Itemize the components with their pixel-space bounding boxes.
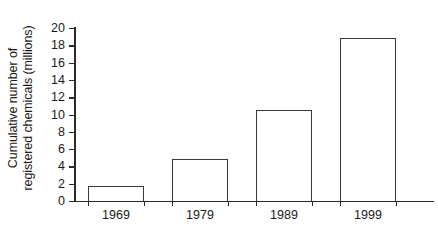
y-tick-label: 6 [58, 141, 65, 157]
y-tick-mark [69, 115, 74, 116]
y-tick-label: 4 [58, 158, 65, 174]
y-tick-label: 20 [51, 20, 65, 36]
bar-chart-figure: Cumulative number of registered chemical… [0, 0, 438, 237]
x-tick-mark [172, 201, 173, 206]
x-tick-mark [312, 201, 313, 206]
y-tick-label: 18 [51, 37, 65, 53]
x-tick-mark [88, 201, 89, 206]
y-tick-mark [69, 45, 74, 46]
bar [172, 159, 228, 201]
y-tick-mark [69, 201, 74, 202]
y-tick-label: 10 [51, 107, 65, 123]
bar [256, 110, 312, 201]
y-tick-mark [69, 149, 74, 150]
y-tick-mark [69, 132, 74, 133]
x-axis-category-label: 1979 [158, 207, 242, 223]
y-tick-mark [69, 166, 74, 167]
x-tick-mark [228, 201, 229, 206]
y-tick-label: 0 [58, 193, 65, 209]
y-tick-mark [69, 28, 74, 29]
x-tick-mark [340, 201, 341, 206]
x-axis-category-label: 1969 [74, 207, 158, 223]
plot-area: 02468101214161820 [74, 28, 410, 201]
y-tick-label: 2 [58, 176, 65, 192]
y-tick-label: 16 [51, 55, 65, 71]
y-axis-title-line-1: Cumulative number of [5, 25, 20, 190]
y-tick-label: 12 [51, 89, 65, 105]
x-tick-mark [396, 201, 397, 206]
y-tick-label: 14 [51, 72, 65, 88]
y-tick-mark [69, 63, 74, 64]
y-axis-title: Cumulative number of registered chemical… [0, 0, 40, 215]
y-axis-title-line-2: registered chemicals (millions) [20, 25, 35, 190]
y-tick-label: 8 [58, 124, 65, 140]
y-tick-mark [69, 184, 74, 185]
y-tick-mark [69, 97, 74, 98]
x-tick-mark [144, 201, 145, 206]
y-tick-mark [69, 80, 74, 81]
x-tick-mark [256, 201, 257, 206]
x-axis-category-label: 1989 [242, 207, 326, 223]
bar [340, 38, 396, 201]
x-axis-category-label: 1999 [326, 207, 410, 223]
bar [88, 186, 144, 201]
